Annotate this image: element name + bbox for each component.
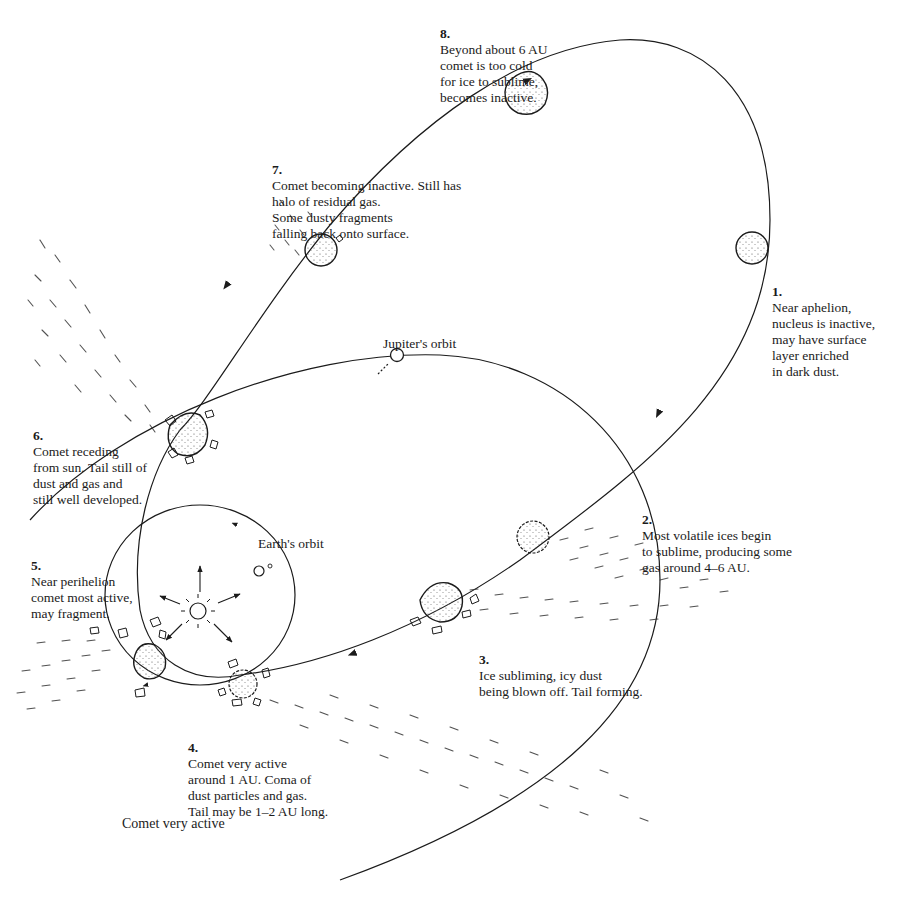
stage-7-label: 7. Comet becoming inactive. Still has ha… — [272, 146, 461, 242]
caption: Comet very active — [122, 816, 225, 832]
earth-planet — [254, 566, 264, 576]
jupiter-orbit-label: Jupiter's orbit — [383, 336, 456, 352]
stage-6-text: Comet receding from sun. Tail still of d… — [33, 444, 147, 507]
stage-7-text: Comet becoming inactive. Still has halo … — [272, 178, 461, 241]
stage-8-text: Beyond about 6 AU comet is too cold for … — [440, 42, 548, 105]
comet-orbit — [137, 40, 770, 677]
stage-6-label: 6. Comet receding from sun. Tail still o… — [33, 412, 147, 508]
earth-orbit-label: Earth's orbit — [258, 536, 324, 552]
comet-nucleus-stage-6 — [165, 410, 218, 464]
comet-nucleus-stage-4 — [218, 659, 270, 706]
stage-3-text: Ice subliming, icy dust being blown off.… — [479, 668, 643, 699]
stage-1-label: 1. Near aphelion, nucleus is inactive, m… — [772, 268, 875, 380]
sun-icon — [181, 594, 215, 628]
stage-4-label: 4. Comet very active around 1 AU. Coma o… — [188, 724, 328, 820]
stage-4-text: Comet very active around 1 AU. Coma of d… — [188, 756, 328, 819]
stage-2-label: 2. Most volatile ices begin to sublime, … — [642, 496, 792, 576]
stage-8-label: 8. Beyond about 6 AU comet is too cold f… — [440, 10, 548, 106]
stage-3-label: 3. Ice subliming, icy dust being blown o… — [479, 636, 643, 700]
stage-5-label: 5. Near perihelion comet most active, ma… — [31, 542, 133, 622]
comet-nucleus-stage-1 — [736, 232, 768, 264]
comet-nucleus-stage-3 — [410, 583, 479, 634]
dust-tails — [17, 200, 728, 821]
comet-nucleus-stage-2 — [517, 521, 549, 553]
stage-2-text: Most volatile ices begin to sublime, pro… — [642, 528, 792, 575]
stage-5-text: Near perihelion comet most active, may f… — [31, 574, 133, 621]
comet-nucleus-stage-5 — [90, 617, 166, 697]
stage-1-text: Near aphelion, nucleus is inactive, may … — [772, 300, 875, 379]
